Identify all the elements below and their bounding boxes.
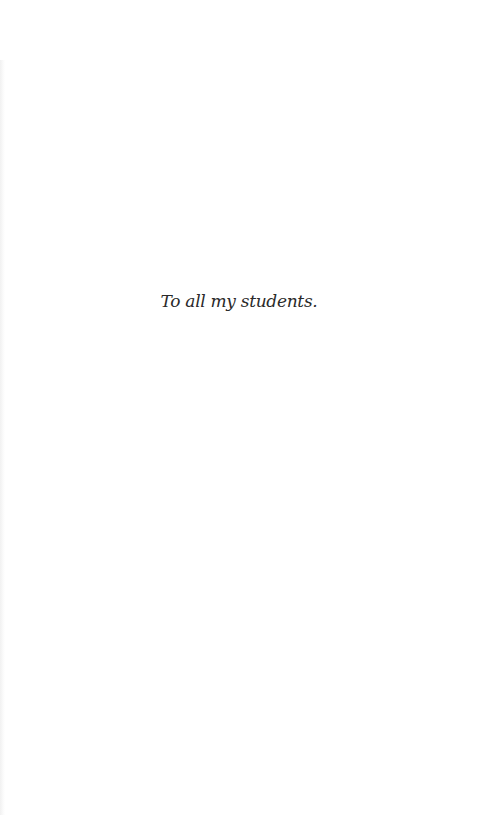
dedication-text: To all my students. (0, 289, 478, 313)
book-page: To all my students. (0, 0, 484, 815)
page-edge-shadow (0, 60, 5, 815)
